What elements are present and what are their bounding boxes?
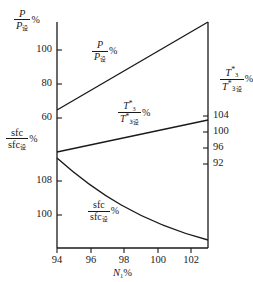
x-tick-label-102: 102 (180, 255, 202, 266)
curve2-fraction: T*3 T*3设 (118, 100, 141, 125)
curve3-denominator: sfc设 (88, 212, 110, 223)
left-tick-label-108: 108 (16, 175, 52, 186)
left-lower-caption-numerator: sfc (6, 127, 28, 139)
right-axis-caption: T*3 T*3设 % (220, 66, 253, 92)
curve1-denominator: P设 (92, 52, 108, 63)
left-lower-caption-denominator: sfc设 (6, 139, 28, 151)
chart-container: P P设 % sfc sfc设 % T*3 T*3设 % 100 80 60 1… (0, 0, 253, 282)
right-tick-label-96: 96 (213, 142, 224, 153)
curve-pressure-ratio (57, 22, 208, 110)
curve2-numerator: T*3 (118, 100, 141, 113)
curve2-denominator: T*3设 (118, 113, 141, 125)
right-caption-denominator: T*3设 (220, 80, 244, 92)
right-tick-label-100: 100 (213, 126, 229, 137)
left-upper-caption-fraction: P P设 (14, 8, 30, 32)
curve-label-turbine-temp-ratio: T*3 T*3设 % (118, 100, 150, 125)
left-lower-axis-caption: sfc sfc设 % (6, 127, 38, 151)
right-caption-unit: % (244, 74, 253, 84)
left-lower-caption-fraction: sfc sfc设 (6, 127, 28, 151)
curve3-fraction: sfc sfc设 (88, 200, 110, 222)
left-upper-axis-caption: P P设 % (14, 8, 40, 32)
curve-sfc-ratio (57, 158, 208, 240)
curve1-fraction: P P设 (92, 40, 108, 62)
right-tick-label-92: 92 (213, 158, 224, 169)
left-upper-caption-unit: % (30, 15, 39, 25)
right-caption-fraction: T*3 T*3设 (220, 66, 244, 92)
left-tick-label-100-lower: 100 (16, 209, 52, 220)
x-axis-symbol: N (113, 267, 120, 278)
x-axis-title: N1% (113, 267, 132, 279)
left-upper-caption-numerator: P (14, 8, 30, 20)
right-caption-numerator: T*3 (220, 66, 244, 80)
curve2-unit: % (141, 108, 150, 118)
x-tick-label-94: 94 (47, 255, 67, 266)
curve1-unit: % (108, 46, 117, 56)
x-tick-label-96: 96 (81, 255, 101, 266)
curve3-unit: % (110, 206, 119, 216)
x-axis-unit: % (123, 267, 132, 278)
left-lower-caption-unit: % (28, 134, 37, 144)
x-tick-label-98: 98 (114, 255, 134, 266)
left-tick-label-80: 80 (16, 78, 52, 89)
curve-label-sfc-ratio: sfc sfc设 % (88, 200, 119, 222)
curve-label-pressure-ratio: P P设 % (92, 40, 117, 62)
left-upper-caption-denominator: P设 (14, 20, 30, 32)
right-tick-label-104: 104 (213, 110, 229, 121)
left-tick-label-100: 100 (16, 44, 52, 55)
x-tick-label-100: 100 (147, 255, 169, 266)
left-tick-label-60: 60 (16, 112, 52, 123)
